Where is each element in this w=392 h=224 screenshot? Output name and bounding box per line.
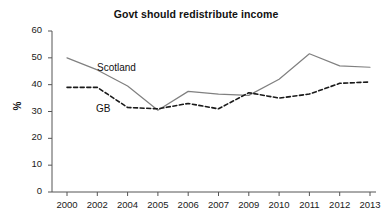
x-axis-tick-label: 2002 <box>80 199 114 210</box>
y-axis-tick-label: 40 <box>16 78 42 89</box>
series-label-gb: GB <box>96 103 110 114</box>
x-axis-tick-label: 2013 <box>353 199 387 210</box>
y-axis-tick-label: 30 <box>16 105 42 116</box>
chart-container: Govt should redistribute income % 010203… <box>0 0 392 224</box>
x-axis-tick-label: 2009 <box>232 199 266 210</box>
series-label-scotland: Scotland <box>97 62 136 73</box>
x-axis-tick-label: 2010 <box>262 199 296 210</box>
x-axis-tick-label: 2006 <box>171 199 205 210</box>
series-line-gb <box>67 82 370 109</box>
y-axis-tick-label: 50 <box>16 51 42 62</box>
x-axis-tick-label: 2005 <box>141 199 175 210</box>
y-axis-tick-label: 60 <box>16 24 42 35</box>
x-axis-tick-label: 2012 <box>323 199 357 210</box>
x-axis-tick-label: 2000 <box>50 199 84 210</box>
x-axis-tick-label: 2011 <box>292 199 326 210</box>
x-axis-tick-label: 2007 <box>202 199 236 210</box>
y-axis-tick-label: 20 <box>16 131 42 142</box>
x-axis-tick-label: 2004 <box>111 199 145 210</box>
y-axis-tick-label: 0 <box>16 185 42 196</box>
plot-area <box>0 0 392 224</box>
y-axis-tick-label: 10 <box>16 158 42 169</box>
